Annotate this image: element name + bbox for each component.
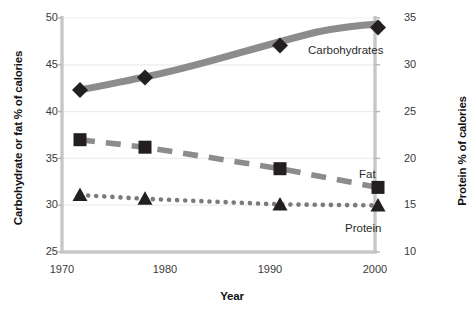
x-tick-2000: 2000 [350, 263, 400, 275]
x-tick-1970: 1970 [37, 263, 87, 275]
series-line-carbohydrates [80, 24, 378, 90]
y-left-tick-40: 40 [30, 105, 58, 117]
series-label-carbohydrates: Carbohydrates [308, 44, 383, 56]
x-axis-title: Year [0, 290, 464, 302]
y-right-tick-20: 20 [404, 152, 432, 164]
y-left-tick-35: 35 [30, 152, 58, 164]
series-line-fat [80, 140, 378, 188]
y-left-tick-25: 25 [30, 245, 58, 257]
y-right-tick-25: 25 [404, 105, 432, 117]
y-right-tick-15: 15 [404, 198, 432, 210]
y-right-tick-30: 30 [404, 58, 432, 70]
series-label-fat: Fat [359, 168, 376, 180]
x-tick-1990: 1990 [245, 263, 295, 275]
y-axis-right-title: Protein % of calories [456, 61, 468, 241]
y-left-tick-30: 30 [30, 198, 58, 210]
y-axis-left-title: Carbohydrate or fat % of calories [12, 33, 24, 243]
y-right-tick-35: 35 [404, 11, 432, 23]
y-left-tick-45: 45 [30, 58, 58, 70]
x-tick-1980: 1980 [140, 263, 190, 275]
y-right-tick-10: 10 [404, 245, 432, 257]
y-left-tick-50: 50 [30, 11, 58, 23]
series-markers-protein [73, 188, 386, 212]
series-line-protein [80, 195, 378, 205]
series-label-protein: Protein [345, 222, 381, 234]
